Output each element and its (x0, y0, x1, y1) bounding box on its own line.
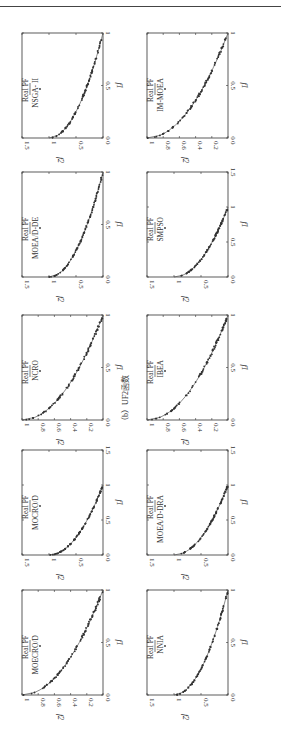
x-tick-label: 1 (104, 313, 112, 317)
x-tick-label: 0 (229, 553, 237, 557)
subplot-smpso: 00.511.500.511.5f1f2Real PFSMPSO (146, 168, 250, 302)
subplot-moea-d-dra: 00.511.500.511.5f1f2Real PFMOEA/D-DRA (146, 446, 250, 580)
legend-algorithm: NNIA (156, 634, 165, 653)
y-tick-label: 0 (104, 141, 112, 145)
solution-points (180, 209, 228, 277)
x-axis-label: f1 (115, 221, 124, 227)
x-tick-label: 0.5 (229, 516, 237, 525)
legend-algorithm: MOECRO/D (31, 634, 40, 674)
legend-real-pf: Real PF (146, 78, 155, 102)
y-tick-label: 1 (148, 141, 156, 145)
y-tick-label: 0 (229, 423, 237, 427)
x-tick-label: 1.5 (229, 446, 237, 455)
x-axis-label: f1 (240, 221, 249, 227)
subplot-mocro-d: 00.511.500.511.5f1f2Real PFMOCRO/D (21, 446, 125, 580)
y-tick-label: 0 (229, 280, 237, 284)
real-pf-curve (174, 207, 228, 277)
x-tick-label: 0 (104, 693, 112, 697)
subplot-im-moea: 00.20.40.60.8100.51f1f2Real PFIM-MOEA (146, 31, 250, 163)
subplot-nsga-ii: 00.511.500.51f1f2Real PFNSGA- II (21, 31, 125, 163)
y-tick-label: 0.2 (212, 423, 220, 432)
real-pf-curve (174, 485, 228, 555)
x-tick-label: 0 (104, 553, 112, 557)
legend-real-pf: Real PF (21, 217, 30, 241)
y-tick-label: 0.8 (164, 141, 172, 150)
legend-algorithm: SMPSO (156, 216, 165, 241)
y-tick-label: 0.5 (202, 558, 210, 567)
x-tick-label: 0 (104, 136, 112, 140)
x-axis-label: f1 (115, 82, 124, 88)
legend-real-pf: Real PF (21, 635, 30, 659)
legend-real-pf: Real PF (146, 495, 155, 519)
real-pf-curve (49, 172, 103, 277)
y-axis-label: f2 (56, 574, 65, 580)
y-tick-label: 1 (175, 558, 183, 562)
y-tick-label: 0.2 (212, 141, 220, 150)
legend-real-pf: Real PF (146, 217, 155, 241)
figure-caption: （b）UF2函数 (120, 375, 130, 425)
solution-points (181, 486, 229, 555)
x-tick-label: 1 (104, 31, 112, 35)
x-tick-label: 1 (104, 170, 112, 174)
x-tick-label: 1 (229, 483, 237, 487)
x-tick-label: 1 (104, 588, 112, 592)
legend-algorithm: NCRO (31, 359, 40, 380)
y-tick-label: 0.8 (39, 698, 47, 707)
x-tick-label: 1 (229, 205, 237, 209)
x-tick-label: 1 (229, 313, 237, 317)
y-tick-label: 0.6 (180, 141, 188, 150)
legend-real-pf: Real PF (146, 635, 155, 659)
y-tick-label: 0 (229, 558, 237, 562)
x-tick-label: 0.5 (104, 516, 112, 525)
y-tick-label: 1.5 (148, 558, 156, 567)
y-axis-label: f2 (56, 439, 65, 445)
y-tick-label: 0 (104, 698, 112, 702)
x-tick-label: 1 (229, 588, 237, 592)
y-axis-label: f2 (181, 574, 190, 580)
y-axis-label: f2 (181, 157, 190, 163)
y-tick-label: 0.8 (164, 423, 172, 432)
y-tick-label: 0 (104, 423, 112, 427)
x-tick-label: 0.5 (229, 81, 237, 90)
legend-real-pf: Real PF (21, 78, 30, 102)
x-tick-label: 0.5 (229, 363, 237, 372)
x-tick-label: 0 (229, 693, 237, 697)
y-tick-label: 1.5 (23, 280, 31, 289)
real-pf-curve (49, 33, 103, 138)
y-tick-label: 0.4 (71, 423, 79, 432)
x-tick-label: 0 (229, 136, 237, 140)
real-pf-curve (174, 590, 228, 695)
y-tick-label: 0.5 (202, 698, 210, 707)
y-axis-label: f2 (181, 296, 190, 302)
legend-algorithm: MOEA/D-DRA (156, 494, 165, 542)
y-tick-label: 1.5 (148, 698, 156, 707)
x-tick-label: 1 (229, 31, 237, 35)
y-tick-label: 1.5 (23, 141, 31, 150)
y-axis-label: f2 (56, 296, 65, 302)
x-axis-label: f1 (115, 499, 124, 505)
legend-algorithm: MOEA/D-DE (31, 217, 40, 259)
x-tick-label: 1 (104, 483, 112, 487)
legend-real-pf: Real PF (21, 495, 30, 519)
legend-real-pf: Real PF (146, 360, 155, 384)
y-tick-label: 1 (148, 423, 156, 427)
y-tick-label: 0 (229, 141, 237, 145)
legend-algorithm: IM-MOEA (156, 77, 165, 111)
y-tick-label: 0.4 (196, 423, 204, 432)
x-tick-label: 1.5 (104, 446, 112, 455)
y-axis-label: f2 (181, 439, 190, 445)
y-tick-label: 0.2 (87, 698, 95, 707)
y-tick-label: 0.5 (202, 280, 210, 289)
y-axis-label: f2 (56, 714, 65, 720)
real-pf-curve (49, 485, 103, 555)
y-tick-label: 0 (229, 698, 237, 702)
y-tick-label: 1 (50, 141, 58, 145)
x-tick-label: 0.5 (104, 638, 112, 647)
y-tick-label: 0.6 (180, 423, 188, 432)
solution-points (52, 39, 103, 138)
x-tick-label: 0 (229, 275, 237, 279)
y-tick-label: 0.5 (77, 558, 85, 567)
y-tick-label: 1 (23, 698, 31, 702)
y-tick-label: 1 (175, 698, 183, 702)
x-axis-label: f1 (240, 499, 249, 505)
